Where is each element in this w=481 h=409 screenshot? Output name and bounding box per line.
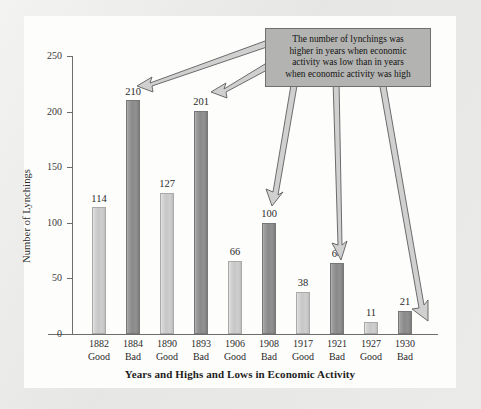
x-category-year: 1921 <box>320 338 354 351</box>
x-category-year: 1884 <box>116 338 150 351</box>
x-category-label: 1927Good <box>354 338 388 363</box>
y-tick-label: 150 <box>22 162 62 172</box>
x-category-label: 1890Good <box>150 338 184 363</box>
bar-group[interactable]: 21 <box>388 333 422 334</box>
bar-group[interactable]: 66 <box>218 333 252 334</box>
x-category-condition: Bad <box>116 351 150 364</box>
bar-1890-good[interactable] <box>160 193 174 334</box>
x-category-condition: Bad <box>184 351 218 364</box>
bar-value-label: 201 <box>184 97 218 108</box>
figure-card: Number of Lynchings 050100150200250 1142… <box>24 16 456 388</box>
y-tick-mark <box>67 334 73 335</box>
x-category-year: 1930 <box>388 338 422 351</box>
x-category-condition: Bad <box>388 351 422 364</box>
x-category-label: 1930Bad <box>388 338 422 363</box>
bar-chart: Number of Lynchings 050100150200250 1142… <box>24 16 456 388</box>
x-category-year: 1882 <box>82 338 116 351</box>
x-category-year: 1890 <box>150 338 184 351</box>
arrow-to-1921-icon <box>332 80 347 260</box>
bar-group[interactable]: 201 <box>184 333 218 334</box>
annotation-callout: The number of lynchings was higher in ye… <box>265 28 431 87</box>
bar-value-label: 38 <box>286 278 320 289</box>
x-category-label: 1893Bad <box>184 338 218 363</box>
bar-value-label: 210 <box>116 87 150 98</box>
y-tick-label: 50 <box>22 273 62 283</box>
x-category-year: 1893 <box>184 338 218 351</box>
x-category-label: 1906Good <box>218 338 252 363</box>
y-axis-line <box>72 56 73 335</box>
annotation-line-2: higher in years when economic <box>272 46 424 58</box>
bar-1921-bad[interactable] <box>330 263 344 334</box>
x-category-condition: Bad <box>252 351 286 364</box>
x-category-condition: Good <box>354 351 388 364</box>
bar-group[interactable]: 210 <box>116 333 150 334</box>
x-category-label: 1921Bad <box>320 338 354 363</box>
bar-value-label: 64 <box>320 249 354 260</box>
x-category-label: 1884Bad <box>116 338 150 363</box>
bar-1917-good[interactable] <box>296 292 310 334</box>
y-tick-label: 250 <box>22 51 62 61</box>
arrow-to-1893-icon <box>211 64 267 98</box>
x-category-condition: Good <box>150 351 184 364</box>
bar-value-label: 100 <box>252 209 286 220</box>
annotation-line-1: The number of lynchings was <box>272 34 424 46</box>
annotation-line-4: when economic activity was high <box>272 69 424 81</box>
arrow-to-1908-icon <box>266 79 298 206</box>
y-tick-label: 0 <box>22 329 62 339</box>
bar-value-label: 127 <box>150 179 184 190</box>
x-category-year: 1908 <box>252 338 286 351</box>
x-axis-line <box>48 334 438 335</box>
x-category-label: 1917Good <box>286 338 320 363</box>
y-tick-label: 100 <box>22 218 62 228</box>
y-tick-mark <box>67 223 73 224</box>
x-category-year: 1917 <box>286 338 320 351</box>
bar-1893-bad[interactable] <box>194 111 208 335</box>
bar-1930-bad[interactable] <box>398 311 412 334</box>
bar-group[interactable]: 114 <box>82 333 116 334</box>
bar-value-label: 21 <box>388 297 422 308</box>
x-category-year: 1927 <box>354 338 388 351</box>
bar-1884-bad[interactable] <box>126 100 140 334</box>
bar-value-label: 11 <box>354 308 388 319</box>
bar-1908-bad[interactable] <box>262 223 276 334</box>
bar-1882-good[interactable] <box>92 207 106 334</box>
bar-value-label: 114 <box>82 194 116 205</box>
y-tick-mark <box>67 56 73 57</box>
x-category-condition: Good <box>82 351 116 364</box>
x-category-label: 1882Good <box>82 338 116 363</box>
annotation-line-3: activity was low than in years <box>272 57 424 69</box>
arrow-to-1930-icon <box>379 80 428 321</box>
x-category-condition: Bad <box>320 351 354 364</box>
y-tick-label: 200 <box>22 107 62 117</box>
bar-group[interactable]: 64 <box>320 333 354 334</box>
x-axis-title: Years and Highs and Lows in Economic Act… <box>24 368 456 380</box>
bar-group[interactable]: 127 <box>150 333 184 334</box>
bar-group[interactable]: 11 <box>354 333 388 334</box>
y-tick-mark <box>67 167 73 168</box>
x-category-label: 1908Bad <box>252 338 286 363</box>
bar-value-label: 66 <box>218 247 252 258</box>
x-category-condition: Good <box>218 351 252 364</box>
y-tick-mark <box>67 278 73 279</box>
bar-1906-good[interactable] <box>228 261 242 334</box>
x-category-condition: Good <box>286 351 320 364</box>
x-category-year: 1906 <box>218 338 252 351</box>
arrow-to-1884-icon <box>137 41 267 92</box>
bar-1927-good[interactable] <box>364 322 378 334</box>
bar-group[interactable]: 100 <box>252 333 286 334</box>
bar-group[interactable]: 38 <box>286 333 320 334</box>
y-tick-mark <box>67 112 73 113</box>
